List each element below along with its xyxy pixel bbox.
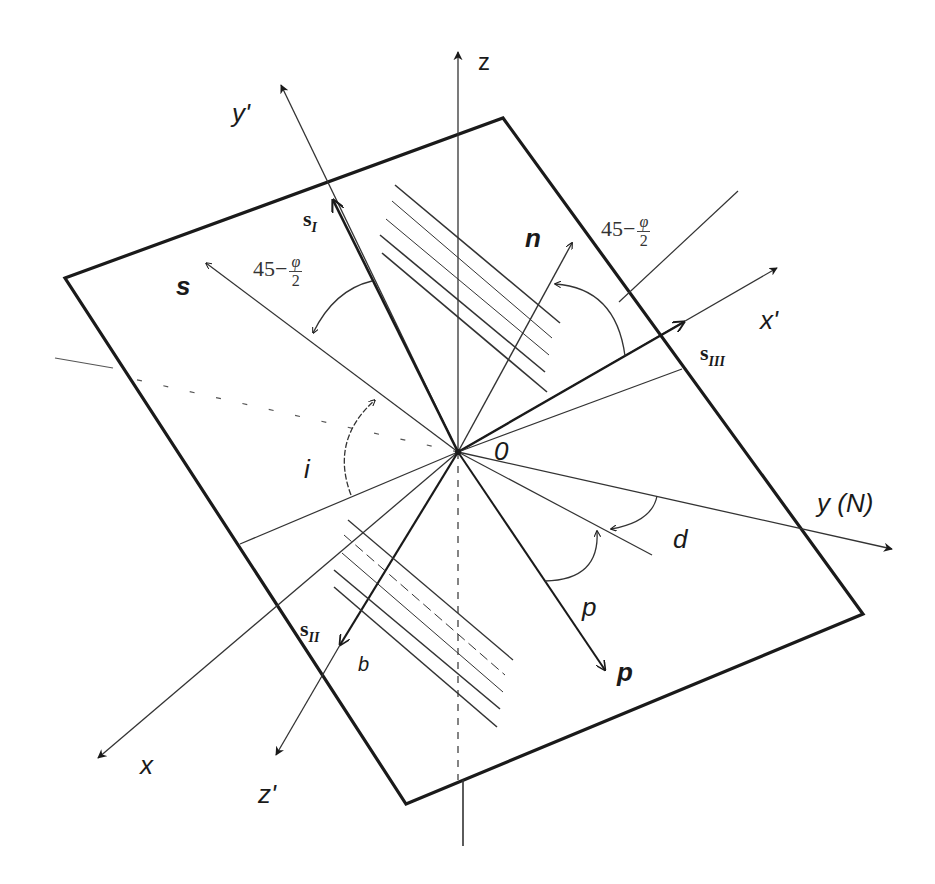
- s-vector: [206, 263, 458, 452]
- z-prime-axis-label: z': [258, 781, 276, 807]
- angle-45-phi-half-left: 45−φ2: [253, 253, 302, 289]
- angle-p-label: p: [582, 594, 596, 620]
- d-line: [458, 452, 652, 555]
- origin-point: [455, 449, 461, 455]
- s-I-label: sI: [303, 208, 317, 235]
- x-prime-axis-label: x': [760, 307, 778, 333]
- arc-45-phi-right: [555, 284, 625, 356]
- z-axis-label: z: [478, 50, 490, 74]
- angle-i-label: i: [304, 456, 310, 482]
- arc-d: [611, 496, 657, 529]
- diagram-canvas: z y' x' y (N) x z' 0 s n p b i d p sI sI…: [0, 0, 935, 884]
- s-vector-label: s: [176, 273, 190, 299]
- hatching-lower: [334, 520, 513, 727]
- arc-45-phi-left: [313, 281, 372, 333]
- plane-trace-left: [240, 452, 458, 544]
- x-axis: [98, 452, 458, 758]
- p-vector: [458, 452, 605, 670]
- hatching-upper: [380, 185, 560, 392]
- s-III-vector: [458, 322, 684, 452]
- z-prime-axis: [276, 645, 340, 755]
- origin-label: 0: [494, 438, 508, 464]
- y-prime-axis-label: y': [232, 100, 250, 126]
- x-axis-label: x: [140, 752, 153, 778]
- n-vector-label: n: [525, 225, 541, 251]
- arc-i: [344, 400, 375, 495]
- strike-trace-left-solid: [55, 358, 113, 368]
- s-I-vector: [333, 200, 458, 452]
- s-II-vector: [340, 452, 458, 645]
- y-north-axis-label: y (N): [817, 490, 873, 516]
- b-label: b: [358, 654, 369, 674]
- s-III-label: sIII: [700, 342, 725, 369]
- plane-trace-right: [458, 369, 682, 452]
- s-II-label: sII: [300, 618, 319, 645]
- angle-d-label: d: [673, 526, 687, 552]
- arc-p: [545, 531, 597, 581]
- angle-45-phi-half-right: 45−φ2: [601, 213, 650, 249]
- p-vector-label: p: [617, 659, 633, 685]
